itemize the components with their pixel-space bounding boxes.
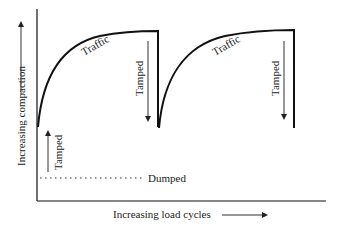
tamped-label-up: Tamped — [52, 134, 64, 170]
tamped-label-1: Tamped — [133, 60, 145, 96]
x-axis-label: Increasing load cycles — [113, 208, 211, 220]
traffic-label-1: Traffic — [79, 32, 111, 57]
dumped-label: Dumped — [148, 172, 186, 184]
compaction-diagram: Increasing compaction Increasing load cy… — [0, 0, 338, 228]
tamped-label-2: Tamped — [269, 60, 281, 96]
